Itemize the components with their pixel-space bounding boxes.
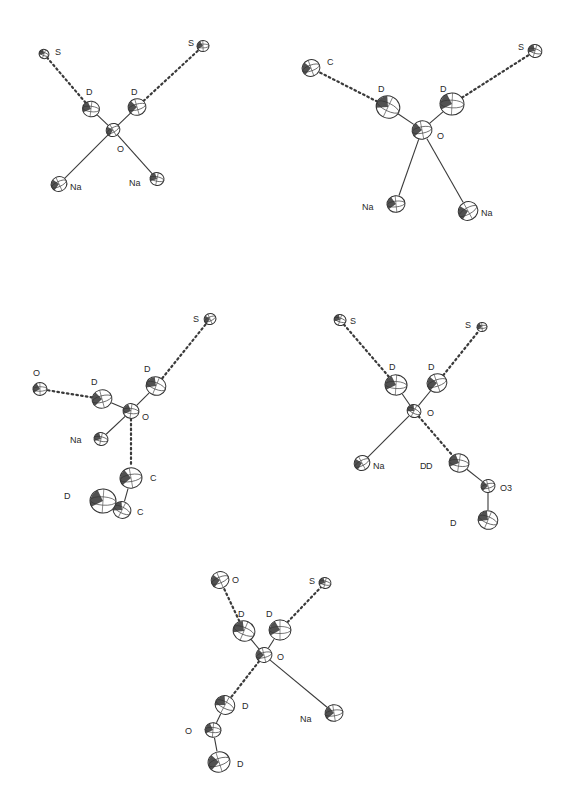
panel-2: ODDCSNaNa [299,42,544,224]
atom-label: D [378,84,385,94]
hydrogen-bond [224,588,239,621]
hydrogen-bond [319,72,377,102]
atom-d3 [86,488,117,514]
atom-d2 [436,92,464,115]
atom-label: Na [129,178,141,188]
atom-label: C [150,473,157,483]
panel-4: ODDSSNaDO3DD [333,313,512,532]
atom-label: D [131,87,138,97]
panel-1: ODDSSNaNa [38,38,210,194]
atom-label: Na [373,461,385,471]
atom-o [253,646,273,664]
atom-label: D [144,364,151,374]
hydrogen-bond [47,58,85,103]
atom-d1 [88,388,114,411]
atom-label: Na [70,182,82,192]
atom-label: D [450,518,457,528]
water-environment-figure: ODDSSNaNaODDCSNaNaODDOSNaCCDODDSSNaDO3DD… [0,0,561,808]
covalent-bond [268,639,274,648]
atom-label: Na [362,202,374,212]
hydrogen-bond [419,416,453,455]
hydrogen-bond [47,390,92,397]
atom-label: O [33,368,40,378]
covalent-bond [418,391,430,406]
atom-label: D [237,759,244,769]
atom-c [299,57,322,79]
covalent-bond [398,114,414,125]
atom-label: S [193,314,199,324]
atom-label: S [188,38,194,48]
atom-d2 [265,620,291,640]
covalent-bond [427,139,463,203]
atom-label: D [428,362,435,372]
atom-d3 [446,452,470,473]
atom-label: O [427,408,434,418]
covalent-bond [251,639,259,648]
atom-label: Na [300,714,312,724]
covalent-bond [216,714,220,723]
atom-d4 [204,749,232,775]
atom-label: O3 [500,483,512,493]
atom-label: D [238,609,245,619]
atom-d1 [372,92,403,122]
hydrogen-bond [144,50,199,101]
covalent-bond [270,660,327,707]
atom-d4 [475,508,501,533]
covalent-bond [118,113,130,125]
covalent-bond [430,112,443,124]
atom-label: S [55,47,61,57]
atom-label: D [440,84,447,94]
atom-d2 [423,371,449,395]
atom-o2 [208,569,232,591]
covalent-bond [97,115,108,125]
figure-panels: ODDSSNaNaODDCSNaNaODDOSNaCCDODDSSNaDO3DD… [31,38,544,775]
covalent-bond [124,489,128,502]
atom-label: S [465,320,471,330]
atom-label: D [266,609,273,619]
atom-na2 [455,198,481,224]
hydrogen-bond [443,331,479,375]
atom-label: O [232,575,239,585]
atom-na1 [384,195,406,213]
covalent-bond [399,139,419,195]
atom-label: Na [481,208,493,218]
atom-label: O [117,144,124,154]
atom-label: D [86,87,93,97]
hydrogen-bond [162,324,206,379]
hydrogen-bond [288,587,321,622]
atom-c1 [116,466,144,490]
atom-na2 [148,171,165,187]
atom-label: D [64,491,71,501]
atom-label: O [437,131,444,141]
atom-label: S [350,316,356,326]
atom-o3 [203,722,222,738]
covalent-bond [65,135,108,178]
atom-label: O [185,726,192,736]
hydrogen-bond [231,661,259,697]
covalent-bond [106,416,125,434]
covalent-bond [214,738,216,751]
atom-label: O [277,652,284,662]
covalent-bond [402,394,410,405]
covalent-bond [118,135,153,174]
panel-3: ODDOSNaCCD [31,312,218,522]
atom-label: D [389,362,396,372]
atom-d3 [212,692,238,718]
atom-s2 [475,322,487,332]
atom-label: D [242,701,249,711]
atom-d1 [230,617,258,644]
atom-label: D [426,461,433,471]
hydrogen-bond [344,325,389,377]
atom-label: C [137,507,144,517]
atom-label: Na [70,435,82,445]
atom-label: O [142,412,149,422]
atom-label: S [309,576,315,586]
atom-o2 [31,382,47,395]
hydrogen-bond [462,55,529,98]
atom-label: C [327,57,334,67]
panel-5: ODDOSNaDOD [185,569,344,775]
atom-d1 [382,374,408,396]
covalent-bond [111,403,123,408]
covalent-bond [368,416,409,457]
atom-o [408,119,433,141]
